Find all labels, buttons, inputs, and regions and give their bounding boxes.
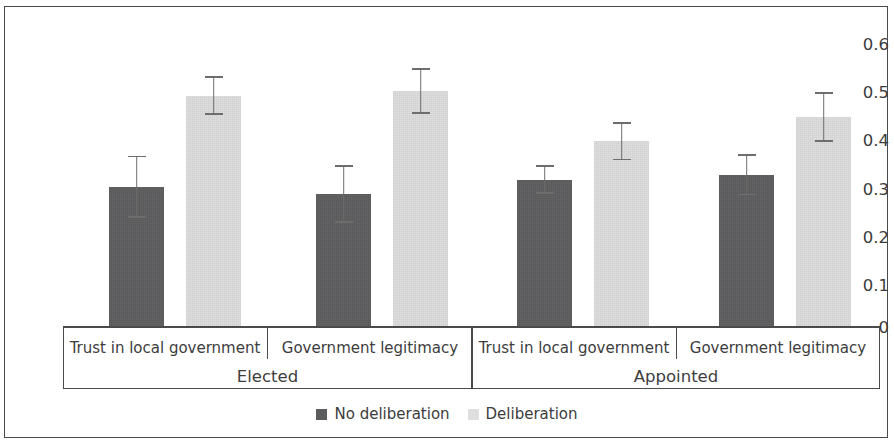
legend-item-no-deliberation: No deliberation bbox=[316, 405, 449, 423]
errorbar-cap-bottom bbox=[815, 140, 833, 142]
errorbar-stem bbox=[136, 156, 138, 218]
bar-appointed-legitimacy-deliberation bbox=[796, 117, 851, 326]
bar-texture bbox=[796, 117, 851, 326]
errorbar-cap-top bbox=[335, 165, 353, 167]
errorbar-cap-bottom bbox=[412, 112, 430, 114]
chart-legend: No deliberation Deliberation bbox=[5, 405, 889, 423]
errorbar-stem bbox=[746, 154, 748, 195]
errorbar-cap-bottom bbox=[738, 194, 756, 196]
errorbar-cap-top bbox=[815, 92, 833, 94]
category-label-elected-legitimacy: Government legitimacy bbox=[270, 341, 470, 356]
errorbar-cap-top bbox=[412, 68, 430, 70]
errorbar-stem bbox=[213, 76, 215, 114]
legend-swatch-no-deliberation bbox=[316, 409, 327, 420]
bar-texture bbox=[393, 91, 448, 326]
bar-texture bbox=[517, 180, 572, 326]
category-label-appointed-legitimacy: Government legitimacy bbox=[678, 341, 878, 356]
category-label-appointed-trust: Trust in local government bbox=[474, 341, 674, 356]
errorbar-cap-bottom bbox=[205, 113, 223, 115]
errorbar-stem bbox=[343, 165, 345, 223]
bar-appointed-trust-no-deliberation bbox=[517, 180, 572, 326]
bar-appointed-trust-deliberation bbox=[594, 141, 649, 326]
errorbar-cap-bottom bbox=[128, 216, 146, 218]
legend-item-deliberation: Deliberation bbox=[468, 405, 578, 423]
bar-appointed-legitimacy-no-deliberation bbox=[719, 175, 774, 326]
errorbar-cap-bottom bbox=[613, 159, 631, 161]
errorbar-cap-top bbox=[738, 154, 756, 156]
bar-texture bbox=[594, 141, 649, 326]
group-label-elected: Elected bbox=[63, 369, 472, 386]
group-label-appointed: Appointed bbox=[472, 369, 880, 386]
y-axis-tick-0.6: 0.6 bbox=[843, 37, 889, 54]
bar-texture bbox=[719, 175, 774, 326]
errorbar-cap-top bbox=[613, 122, 631, 124]
y-axis-tick-0.5: 0.5 bbox=[843, 85, 889, 102]
legend-label-no-deliberation: No deliberation bbox=[334, 405, 449, 423]
errorbar-cap-top bbox=[205, 76, 223, 78]
legend-label-deliberation: Deliberation bbox=[486, 405, 578, 423]
errorbar-stem bbox=[544, 165, 546, 194]
errorbar-cap-bottom bbox=[335, 221, 353, 223]
legend-swatch-deliberation bbox=[468, 409, 479, 420]
errorbar-cap-top bbox=[128, 156, 146, 158]
chart-frame: 0.6 0.5 0.4 0.3 0.2 0.1 0 bbox=[4, 6, 888, 438]
bar-elected-legitimacy-deliberation bbox=[393, 91, 448, 326]
bar-texture bbox=[186, 96, 241, 326]
category-label-elected-trust: Trust in local government bbox=[65, 341, 265, 356]
bar-elected-trust-deliberation bbox=[186, 96, 241, 326]
errorbar-stem bbox=[420, 68, 422, 114]
errorbar-cap-top bbox=[536, 165, 554, 167]
errorbar-stem bbox=[823, 92, 825, 142]
errorbar-cap-bottom bbox=[536, 192, 554, 194]
category-divider-elected bbox=[267, 326, 268, 359]
bar-chart-plot-area: 0.6 0.5 0.4 0.3 0.2 0.1 0 bbox=[5, 7, 889, 439]
errorbar-stem bbox=[621, 122, 623, 160]
